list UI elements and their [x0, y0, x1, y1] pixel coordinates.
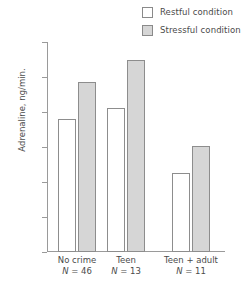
- legend-label-restful: Restful condition: [160, 7, 233, 17]
- legend-swatch-restful-icon: [142, 7, 153, 18]
- y-axis-title: Adrenaline, ng/min.: [17, 40, 27, 180]
- bar-teen-stressful: [127, 60, 145, 253]
- bar-teen-restful: [107, 108, 125, 252]
- legend-swatch-stressful-icon: [142, 25, 153, 36]
- legend-item-restful: Restful condition: [142, 3, 241, 21]
- x-group-label-teen: TeenN = 13: [92, 255, 160, 277]
- y-tick-0: [42, 252, 47, 253]
- bar-container: [47, 42, 225, 252]
- group-sample-size: N = 13: [92, 266, 160, 277]
- chart-legend: Restful condition Stressful condition: [142, 3, 241, 39]
- bar-no-crime-stressful: [78, 82, 96, 252]
- group-sample-size: N = 11: [157, 266, 225, 277]
- group-name: Teen + adult: [157, 255, 225, 266]
- x-axis-group-labels: No crimeN = 46TeenN = 13Teen + adultN = …: [47, 255, 225, 305]
- bar-no-crime-restful: [58, 119, 76, 252]
- legend-item-stressful: Stressful condition: [142, 21, 241, 39]
- x-group-label-teen-adult: Teen + adultN = 11: [157, 255, 225, 277]
- group-name: Teen: [92, 255, 160, 266]
- bar-teen-adult-restful: [172, 173, 190, 252]
- adrenaline-bar-chart: Restful condition Stressful condition Ad…: [0, 0, 242, 306]
- bar-teen-adult-stressful: [192, 146, 210, 252]
- legend-label-stressful: Stressful condition: [160, 25, 241, 35]
- plot-area: 1500 1250 1000 750 500 250 0: [47, 42, 225, 252]
